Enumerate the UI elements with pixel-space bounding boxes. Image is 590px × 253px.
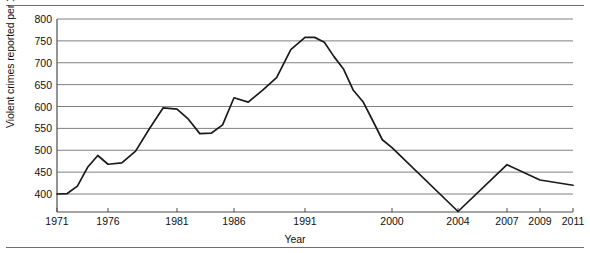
x-axis-tick-label: 1971 [45, 216, 68, 227]
y-axis-tick-label: 750 [26, 36, 52, 46]
chart-area: Violent crimes reported per 100,000 popu… [0, 0, 590, 253]
y-axis-tick-label: 700 [26, 58, 52, 68]
data-line-series-violent-crimes [57, 37, 573, 211]
x-axis-tick-label: 2004 [446, 216, 469, 227]
x-axis-tick-label: 1981 [165, 216, 188, 227]
x-axis-tick-label: 2011 [562, 216, 585, 227]
y-axis-tick-label: 650 [26, 80, 52, 90]
x-axis-tick-label: 2000 [380, 216, 403, 227]
y-axis-tick-label: 400 [26, 189, 52, 199]
x-axis-title: Year [0, 233, 590, 245]
x-axis-tick-label: 2007 [495, 216, 518, 227]
x-axis-tick-label: 2009 [528, 216, 551, 227]
y-axis-tick-label: 800 [26, 14, 52, 24]
y-axis-tick-label: 500 [26, 145, 52, 155]
figure: Violent crimes reported per 100,000 popu… [0, 0, 590, 253]
x-axis-tick-label: 1986 [222, 216, 245, 227]
y-axis-tick-label: 550 [26, 123, 52, 133]
y-axis-tick-label: 600 [26, 102, 52, 112]
x-axis-tick-label: 1991 [293, 216, 316, 227]
axes [57, 19, 573, 212]
gridlines [57, 19, 573, 194]
x-axis-tick-label: 1976 [96, 216, 119, 227]
y-axis-tick-label: 450 [26, 167, 52, 177]
